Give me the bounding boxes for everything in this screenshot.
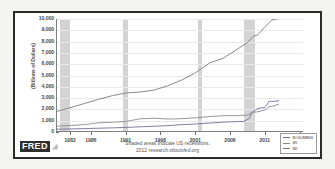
y-tick-label: 9,000 [18, 28, 54, 33]
chart-footnote: Shaded areas indicate US recessions. 201… [15, 140, 320, 153]
series-line [57, 104, 279, 126]
legend-swatch-icon [283, 143, 290, 144]
chart-legend: BOGUMBNSM1M2 [280, 133, 317, 155]
legend-swatch-icon [283, 148, 290, 149]
legend-label: BOGUMBNS [292, 136, 313, 140]
series-lines [57, 19, 303, 131]
legend-label: M2 [292, 147, 297, 151]
legend-label: M1 [292, 141, 297, 145]
footnote-line-2: 2012 research.stlouisfed.org [15, 147, 320, 154]
y-tick-label: 8,000 [18, 39, 54, 44]
y-tick-label: 2,000 [18, 107, 54, 112]
y-axis-tick-labels: 10,0009,0008,0007,0006,0005,0004,0003,00… [15, 19, 54, 132]
plot-area [56, 19, 303, 132]
screenshot-root: (Billions of Dollars) 10,0009,0008,0007,… [0, 0, 335, 169]
legend-item[interactable]: M1 [283, 141, 313, 146]
y-tick-label: 3,000 [18, 95, 54, 100]
chart-footer: FRED Shaded areas indicate US recessions… [15, 131, 320, 157]
y-tick-label: 10,000 [18, 16, 54, 21]
plot-wrapper [56, 19, 303, 132]
y-tick-label: 5,000 [18, 73, 54, 78]
legend-swatch-icon [283, 137, 290, 138]
legend-item[interactable]: M2 [283, 147, 313, 152]
y-tick-label: 7,000 [18, 50, 54, 55]
y-tick-label: 6,000 [18, 62, 54, 67]
fred-chart-card: (Billions of Dollars) 10,0009,0008,0007,… [13, 11, 322, 159]
y-tick-label: 1,000 [18, 118, 54, 123]
y-tick-label: 4,000 [18, 84, 54, 89]
series-line [57, 19, 279, 111]
legend-item[interactable]: BOGUMBNS [283, 136, 313, 141]
